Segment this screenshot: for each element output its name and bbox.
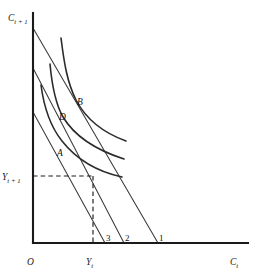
- budget-line-label-1: 1: [159, 233, 164, 243]
- indifference-curve-high: [61, 38, 126, 141]
- point-label-d: D: [58, 112, 66, 122]
- x-axis-label: Ct: [230, 257, 239, 269]
- x-income-tick-label: Yt: [86, 257, 94, 269]
- budget-lines-group: [33, 28, 158, 243]
- budget-line-label-3: 3: [106, 233, 111, 243]
- consumption-diagram-figure: Ct + 1 Ct O Yt + 1 Yt B D A 3 2 1: [0, 0, 256, 271]
- origin-label: O: [27, 257, 34, 267]
- budget-line-3: [33, 112, 105, 243]
- y-axis-label-sub: t + 1: [14, 18, 27, 25]
- budget-line-1: [33, 28, 158, 243]
- axes-group: [33, 13, 248, 243]
- point-label-b: B: [77, 97, 83, 107]
- chart-canvas: Ct + 1 Ct O Yt + 1 Yt B D A 3 2 1: [0, 0, 256, 271]
- labels-group: Ct + 1 Ct O Yt + 1 Yt B D A 3 2 1: [2, 13, 239, 269]
- y-axis-label: Ct + 1: [8, 13, 28, 25]
- y-income-tick-sub: t + 1: [7, 177, 20, 184]
- income-guides-group: [33, 176, 93, 243]
- x-income-tick-sub: t: [91, 262, 94, 269]
- budget-line-2: [33, 68, 124, 243]
- budget-line-label-2: 2: [125, 233, 130, 243]
- y-income-tick-label: Yt + 1: [2, 172, 21, 184]
- point-label-a: A: [56, 148, 63, 158]
- x-axis-label-sub: t: [236, 262, 239, 269]
